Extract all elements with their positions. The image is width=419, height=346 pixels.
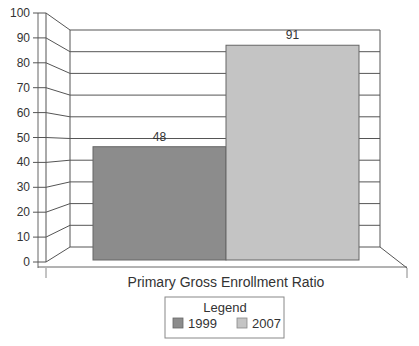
legend: Legend 1999 2007 bbox=[165, 297, 284, 338]
legend-swatch-2007 bbox=[237, 318, 247, 328]
gridline-depth-40 bbox=[46, 160, 70, 162]
gridline-depth-80 bbox=[46, 63, 70, 74]
chart: 0102030405060708090100 4891 Primary Gros… bbox=[0, 0, 419, 346]
gridline-depth-50 bbox=[46, 138, 70, 139]
y-tick-label-10: 10 bbox=[17, 230, 31, 244]
gridline-depth-10 bbox=[46, 225, 70, 237]
y-tick-label-30: 30 bbox=[17, 180, 31, 194]
legend-label-1999: 1999 bbox=[188, 316, 217, 331]
gridline-depth-100 bbox=[46, 13, 70, 30]
legend-label-2007: 2007 bbox=[252, 316, 281, 331]
bars-layer bbox=[93, 45, 359, 260]
gridline-depth-70 bbox=[46, 88, 70, 95]
y-tick-label-40: 40 bbox=[17, 155, 31, 169]
axis-layer: 0102030405060708090100 bbox=[10, 6, 46, 269]
floor-right-edge bbox=[380, 247, 407, 268]
gridline-depth-20 bbox=[46, 204, 70, 213]
gridline-depth-90 bbox=[46, 38, 70, 52]
y-tick-label-50: 50 bbox=[17, 131, 31, 145]
y-tick-label-60: 60 bbox=[17, 106, 31, 120]
gridline-depth-0 bbox=[46, 247, 70, 262]
y-tick-label-100: 100 bbox=[10, 6, 30, 20]
y-tick-label-70: 70 bbox=[17, 81, 31, 95]
bar-2007 bbox=[226, 45, 359, 260]
legend-title: Legend bbox=[203, 300, 246, 315]
y-tick-label-90: 90 bbox=[17, 31, 31, 45]
y-tick-label-0: 0 bbox=[23, 255, 30, 269]
data-label-2007: 91 bbox=[286, 28, 300, 42]
y-tick-label-80: 80 bbox=[17, 56, 31, 70]
bar-1999 bbox=[93, 147, 226, 260]
x-axis-label: Primary Gross Enrollment Ratio bbox=[128, 274, 325, 290]
gridline-depth-30 bbox=[46, 182, 70, 187]
data-label-1999: 48 bbox=[153, 130, 167, 144]
legend-swatch-1999 bbox=[173, 318, 183, 328]
gridline-depth-60 bbox=[46, 113, 70, 117]
y-tick-label-20: 20 bbox=[17, 205, 31, 219]
